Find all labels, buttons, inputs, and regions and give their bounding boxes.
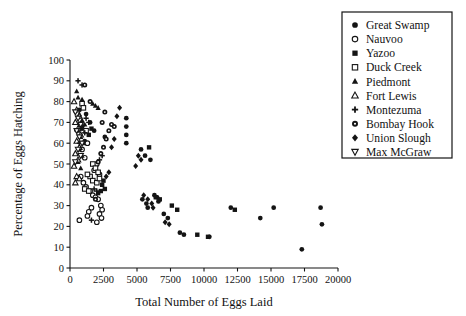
legend-marker-filled-circle (352, 22, 358, 28)
data-point (165, 216, 170, 221)
data-point (271, 205, 276, 210)
x-axis-title: Total Number of Eggs Laid (135, 295, 273, 309)
data-point (320, 222, 325, 227)
data-point (106, 128, 111, 133)
data-point (74, 129, 79, 134)
y-tick-label: 90 (54, 75, 65, 86)
data-point (182, 232, 187, 237)
x-tick-label: 15000 (258, 274, 284, 285)
data-point (75, 95, 80, 100)
legend-label: Bombay Hook (366, 118, 434, 131)
data-point (133, 163, 138, 169)
legend-marker-dotted-circle (352, 121, 358, 127)
data-point (85, 214, 90, 219)
data-point (124, 133, 129, 138)
data-point (147, 145, 151, 149)
data-point (98, 151, 103, 156)
data-point (100, 183, 104, 187)
data-point (87, 189, 92, 194)
legend-marker-open-circle (352, 36, 358, 42)
legend-marker-open-square (352, 65, 357, 70)
legend-label: Duck Creek (366, 61, 422, 74)
data-points (71, 78, 324, 251)
x-tick-label: 0 (67, 274, 72, 285)
data-point (318, 205, 323, 210)
figure-root: 0102030405060708090100025005000750010000… (0, 0, 466, 316)
data-point (124, 141, 129, 146)
x-tick-label: 5000 (127, 274, 148, 285)
series-great-swamp (77, 108, 324, 252)
y-tick-label: 100 (48, 55, 64, 66)
data-point (93, 197, 98, 202)
data-point (228, 205, 233, 210)
data-point (154, 195, 158, 199)
legend-label: Yazoo (366, 47, 395, 60)
y-tick-label: 40 (54, 179, 65, 190)
series-yazoo (87, 126, 237, 239)
data-point (77, 218, 82, 223)
data-point (85, 172, 90, 177)
y-tick-label: 60 (54, 138, 65, 149)
data-point (81, 106, 86, 111)
legend-label: Piedmont (366, 76, 411, 89)
y-tick-label: 10 (54, 242, 65, 253)
data-point (143, 153, 148, 158)
data-point (109, 144, 114, 150)
data-point (139, 147, 144, 152)
x-tick-label: 17500 (291, 274, 317, 285)
scatter-chart: 0102030405060708090100025005000750010000… (0, 0, 466, 316)
data-point (100, 120, 105, 125)
legend-label: Max McGraw (366, 146, 432, 159)
data-point (124, 124, 129, 129)
data-point (112, 124, 117, 129)
data-point (175, 208, 179, 212)
data-point (73, 110, 78, 115)
y-tick-label: 70 (54, 117, 65, 128)
y-tick-label: 30 (54, 200, 65, 211)
data-point (106, 169, 111, 175)
data-point (103, 187, 107, 191)
data-point (145, 205, 150, 210)
y-tick-label: 0 (59, 263, 64, 274)
data-point (114, 113, 119, 119)
data-point (158, 197, 162, 201)
data-point (89, 126, 93, 130)
series-union-slough (104, 105, 172, 227)
data-point (124, 116, 129, 121)
legend: Great SwampNauvooYazooDuck CreekPiedmont… (342, 12, 452, 159)
data-point (102, 110, 107, 115)
legend-marker-filled-square (352, 51, 357, 56)
data-point (170, 203, 174, 207)
data-point (75, 78, 80, 83)
x-tick-label: 7500 (160, 274, 181, 285)
y-tick-label: 80 (54, 96, 65, 107)
data-point (78, 165, 83, 170)
y-tick-label: 50 (54, 159, 65, 170)
data-point (82, 82, 87, 87)
legend-label: Great Swamp (366, 19, 430, 32)
data-point (299, 247, 304, 252)
data-point (178, 230, 183, 235)
data-point (206, 235, 210, 239)
data-point (258, 216, 263, 221)
data-point (85, 141, 90, 146)
data-point (89, 218, 94, 223)
data-point (96, 170, 101, 175)
data-point (99, 216, 104, 221)
data-point (104, 137, 109, 142)
x-tick-label: 2500 (93, 274, 114, 285)
legend-label: Fort Lewis (366, 90, 417, 103)
data-point (148, 157, 153, 162)
data-point (161, 212, 166, 217)
data-point (117, 105, 122, 111)
x-tick-label: 20000 (325, 274, 351, 285)
data-point (233, 208, 237, 212)
legend-label: Nauvoo (366, 33, 403, 46)
data-point (97, 176, 102, 181)
data-point (96, 159, 101, 164)
svg-text:Percentage of Eggs Hatching: Percentage of Eggs Hatching (11, 91, 25, 237)
data-point (195, 233, 199, 237)
data-point (136, 153, 141, 159)
x-tick-label: 10000 (191, 274, 217, 285)
legend-label: Union Slough (366, 132, 431, 145)
